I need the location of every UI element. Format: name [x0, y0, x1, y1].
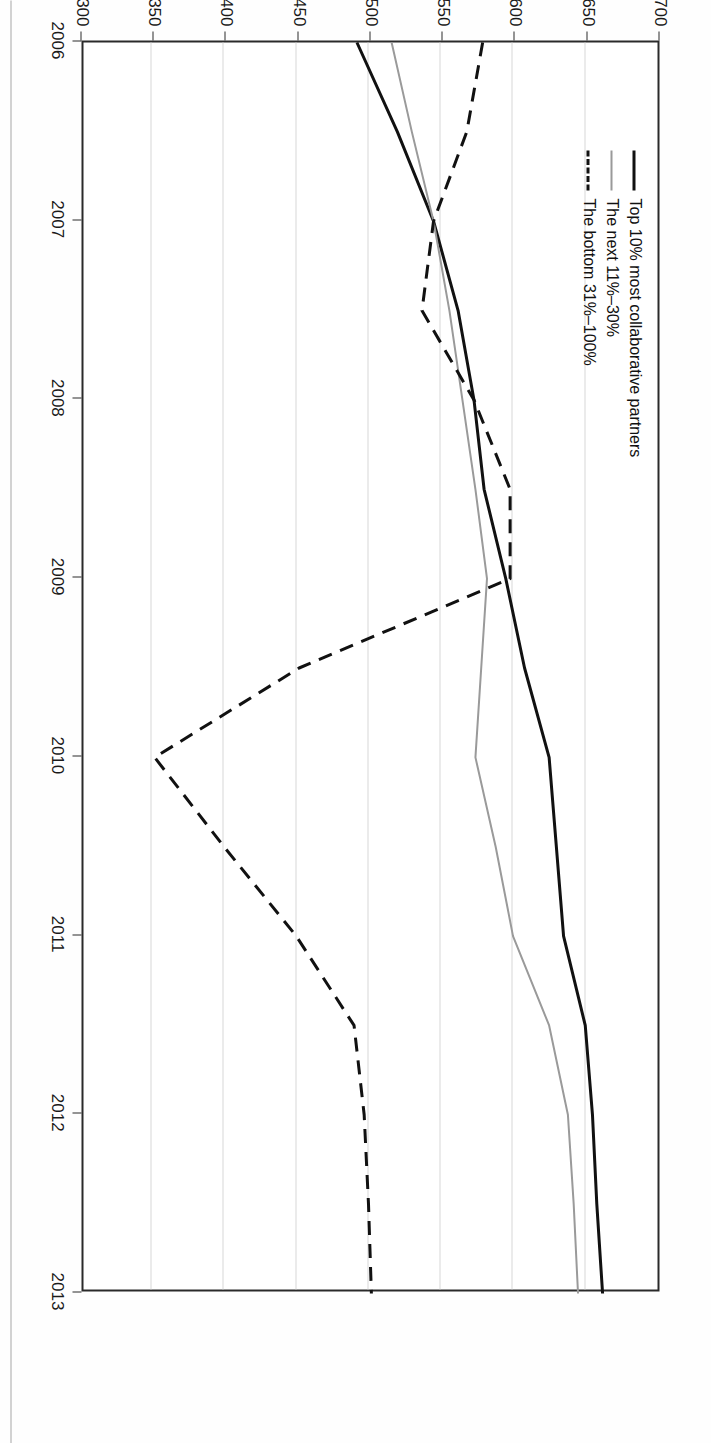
value-axis-tick-label: $400	[216, 0, 236, 26]
category-axis-tick	[72, 219, 81, 220]
chart-plot-area: Top 10% most collaborative partnersThe n…	[81, 40, 659, 1291]
series-lines	[79, 42, 657, 1293]
category-axis-tick-label: 2009	[46, 557, 66, 595]
series-line-3	[154, 42, 509, 1293]
category-axis-tick	[72, 755, 81, 756]
category-axis-tick-label: 2013	[46, 1272, 66, 1310]
category-axis-tick-label: 2012	[46, 1093, 66, 1131]
category-axis-tick	[72, 934, 81, 935]
chart-plot-wrapper: Top 10% most collaborative partnersThe n…	[81, 40, 659, 1291]
value-axis-tick	[369, 31, 370, 40]
value-axis-tick-label: $700	[649, 0, 669, 26]
category-axis-tick	[72, 397, 81, 398]
category-axis-tick-label: 2010	[46, 736, 66, 774]
series-line-2	[391, 42, 577, 1293]
value-axis-tick	[658, 31, 659, 40]
legend-swatch-dashed-black-icon	[587, 150, 590, 190]
category-axis-tick-label: 2011	[46, 915, 66, 952]
category-axis-tick	[72, 576, 81, 577]
value-axis-tick-label: $550	[432, 0, 452, 26]
category-axis-tick	[72, 40, 81, 41]
category-axis-tick	[72, 1112, 81, 1113]
legend-item[interactable]: The next 11%–30%	[602, 150, 620, 457]
category-axis-tick-label: 2006	[46, 21, 66, 59]
category-axis-tick-label: 2007	[46, 200, 66, 238]
legend-item-label: Top 10% most collaborative partners	[625, 198, 643, 457]
legend-swatch-solid-gray-icon	[610, 150, 612, 190]
value-axis-tick-label: $600	[505, 0, 525, 26]
value-axis-tick-label: $650	[577, 0, 597, 26]
legend-swatch-solid-black-icon	[633, 150, 636, 190]
legend-item-label: The next 11%–30%	[602, 198, 620, 336]
value-axis-tick	[225, 31, 226, 40]
category-axis-tick	[72, 1291, 81, 1292]
legend-item[interactable]: Top 10% most collaborative partners	[625, 150, 643, 457]
page-edge-line	[10, 0, 11, 1443]
value-axis-tick	[152, 31, 153, 40]
chart-legend: Top 10% most collaborative partnersThe n…	[579, 150, 643, 457]
rotated-page-stage: Top 10% most collaborative partnersThe n…	[0, 0, 711, 1443]
value-axis-tick-label: $500	[360, 0, 380, 26]
value-axis-tick-label: $450	[288, 0, 308, 26]
category-axis-tick-label: 2008	[46, 379, 66, 417]
value-axis-tick	[80, 31, 81, 40]
value-axis-tick	[441, 31, 442, 40]
scanned-sheet: Top 10% most collaborative partnersThe n…	[0, 0, 711, 1443]
value-axis-tick-label: $350	[143, 0, 163, 26]
value-axis-tick	[586, 31, 587, 40]
value-axis-tick-label: $300	[71, 0, 91, 26]
legend-item-label: The bottom 31%–100%	[579, 198, 597, 365]
legend-item[interactable]: The bottom 31%–100%	[579, 150, 597, 457]
value-axis-tick	[514, 31, 515, 40]
value-axis-tick	[297, 31, 298, 40]
